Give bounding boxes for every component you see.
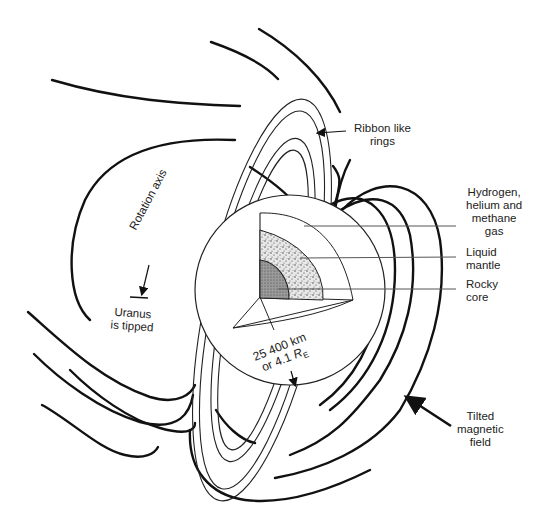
- magnetic-field-arrow: [408, 398, 451, 426]
- label-core: Rocky core: [466, 278, 498, 304]
- label-rings: Ribbon like rings: [354, 122, 411, 148]
- label-uranus-tipped: Uranus is tipped: [110, 306, 155, 335]
- label-mantle: Liquid mantle: [466, 246, 501, 272]
- rings-arrow: [318, 131, 346, 133]
- label-magnetic-field: Tilted magnetic field: [457, 410, 504, 449]
- rotation-axis-base: [130, 297, 148, 298]
- uranus-diagram: Ribbon like rings Hydrogen, helium and m…: [0, 0, 542, 524]
- label-atmosphere: Hydrogen, helium and methane gas: [466, 186, 522, 238]
- rotation-axis-arrow: [142, 265, 149, 294]
